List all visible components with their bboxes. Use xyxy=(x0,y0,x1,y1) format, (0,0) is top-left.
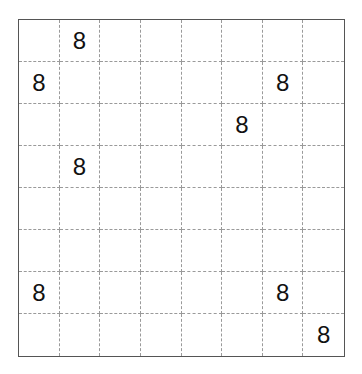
grid-cell[interactable] xyxy=(19,230,60,272)
grid-cell[interactable] xyxy=(19,188,60,230)
grid-cell[interactable] xyxy=(182,62,223,104)
grid-cell[interactable] xyxy=(100,230,141,272)
grid-cell[interactable] xyxy=(182,188,223,230)
grid-cell[interactable] xyxy=(100,62,141,104)
grid-cell[interactable] xyxy=(141,20,182,62)
grid-cell[interactable] xyxy=(182,146,223,188)
grid-cell[interactable] xyxy=(182,20,223,62)
grid-cell[interactable] xyxy=(100,188,141,230)
grid-cell[interactable] xyxy=(263,20,304,62)
grid-cell[interactable]: 8 xyxy=(263,272,304,314)
grid-cell[interactable]: 8 xyxy=(60,146,101,188)
grid-cell[interactable] xyxy=(222,188,263,230)
grid-cell[interactable] xyxy=(222,20,263,62)
grid-cell[interactable] xyxy=(141,230,182,272)
grid-cell[interactable] xyxy=(141,272,182,314)
grid-cell[interactable]: 8 xyxy=(222,104,263,146)
grid-cell[interactable] xyxy=(263,230,304,272)
grid-cell[interactable] xyxy=(182,314,223,356)
grid-cell[interactable] xyxy=(19,20,60,62)
grid-cell[interactable] xyxy=(141,104,182,146)
grid-cell[interactable] xyxy=(222,272,263,314)
grid-cell[interactable] xyxy=(263,188,304,230)
grid-cell[interactable] xyxy=(60,62,101,104)
grid-cell[interactable] xyxy=(222,146,263,188)
grid-cell[interactable] xyxy=(19,104,60,146)
grid-cell[interactable] xyxy=(100,146,141,188)
grid-cell[interactable]: 8 xyxy=(19,272,60,314)
grid-cell[interactable] xyxy=(263,314,304,356)
grid-cell[interactable] xyxy=(100,104,141,146)
grid-cell[interactable] xyxy=(303,188,344,230)
grid-cell[interactable] xyxy=(141,314,182,356)
grid-cell[interactable] xyxy=(100,272,141,314)
grid-cell[interactable] xyxy=(182,272,223,314)
grid-cell[interactable] xyxy=(100,314,141,356)
grid-cell[interactable] xyxy=(222,62,263,104)
grid-cell[interactable] xyxy=(19,146,60,188)
grid-cell[interactable] xyxy=(60,230,101,272)
grid-cell[interactable] xyxy=(19,314,60,356)
grid-cell[interactable] xyxy=(303,104,344,146)
grid-cell[interactable]: 8 xyxy=(303,314,344,356)
grid-cell[interactable]: 8 xyxy=(60,20,101,62)
grid-cell[interactable] xyxy=(60,188,101,230)
grid-cell[interactable] xyxy=(263,146,304,188)
grid-cell[interactable]: 8 xyxy=(19,62,60,104)
grid-cell[interactable] xyxy=(141,62,182,104)
grid-cell[interactable] xyxy=(303,230,344,272)
grid-cell[interactable] xyxy=(263,104,304,146)
puzzle-grid: 88888888 xyxy=(18,19,345,357)
grid-cell[interactable] xyxy=(303,20,344,62)
grid-cell[interactable] xyxy=(141,188,182,230)
grid-cell[interactable]: 8 xyxy=(263,62,304,104)
grid-cell[interactable] xyxy=(303,62,344,104)
grid-cell[interactable] xyxy=(222,314,263,356)
grid-cell[interactable] xyxy=(141,146,182,188)
grid-cell[interactable] xyxy=(60,314,101,356)
grid-cell[interactable] xyxy=(60,272,101,314)
grid-cell[interactable] xyxy=(182,230,223,272)
grid-cell[interactable] xyxy=(222,230,263,272)
grid-cell[interactable] xyxy=(303,272,344,314)
grid-cell[interactable] xyxy=(100,20,141,62)
grid-cell[interactable] xyxy=(303,146,344,188)
grid-cell[interactable] xyxy=(60,104,101,146)
grid-cell[interactable] xyxy=(182,104,223,146)
